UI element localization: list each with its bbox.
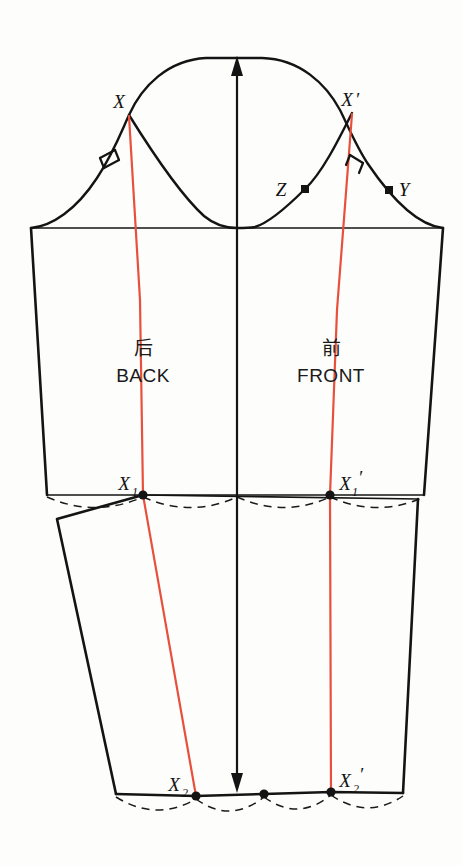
- label-point-X1: X: [117, 473, 131, 494]
- panel-label-back-cjk: 后: [134, 337, 153, 359]
- label-point-X-prime-group: X ′: [340, 89, 360, 110]
- label-point-X2-prime: X: [338, 770, 352, 791]
- prime-mark-X1-prime: ′: [358, 467, 363, 488]
- point-marker-Y: [385, 186, 393, 194]
- label-point-X2: X: [167, 774, 181, 795]
- sleeve-cap-front-outer-curve: [237, 58, 443, 228]
- sleeve-pattern-diagram: X X ′ Z Y X 1 X 1 ′ X 2 X 2 ′ 后 BACK 前 F: [0, 0, 462, 866]
- label-point-X1-subscript: 1: [132, 485, 138, 499]
- point-marker-Z: [301, 185, 309, 193]
- back-balance-seam-line: [129, 116, 196, 796]
- point-marker-X2: [191, 791, 200, 800]
- panel-label-front-latin: FRONT: [297, 365, 365, 386]
- label-point-Y: Y: [399, 179, 412, 200]
- front-balance-seam-line: [330, 114, 352, 792]
- prime-mark-X-prime: ′: [355, 89, 360, 110]
- label-point-X2-subscript: 2: [182, 786, 188, 800]
- pattern-drawing-canvas: X X ′ Z Y X 1 X 1 ′ X 2 X 2 ′ 后 BACK 前 F: [0, 0, 462, 866]
- prime-mark-X2-prime: ′: [359, 764, 364, 785]
- upper-sleeve-front-side-seam: [424, 228, 443, 495]
- label-point-Z: Z: [276, 179, 287, 200]
- lower-sleeve-front-side-seam: [403, 499, 418, 793]
- point-marker-X2-prime: [326, 787, 335, 796]
- label-point-X1-prime: X: [338, 473, 352, 494]
- sleeve-cap-inner-back-curve: [129, 115, 237, 228]
- point-marker-X1: [138, 490, 147, 499]
- point-marker-X1-prime: [325, 490, 334, 499]
- lower-sleeve-back-side-seam: [57, 495, 143, 794]
- label-point-X: X: [112, 91, 126, 112]
- grainline-bottom-arrowhead: [231, 773, 243, 793]
- upper-sleeve-back-side-seam: [31, 228, 47, 495]
- panel-label-front-cjk: 前: [322, 337, 341, 359]
- hem-dashed-ease-arcs: [116, 795, 403, 811]
- point-marker-hem-center: [259, 789, 268, 798]
- label-point-X-prime: X: [340, 89, 354, 110]
- sleeve-cap-inner-front-curve: [237, 113, 352, 228]
- panel-label-back-latin: BACK: [116, 365, 170, 386]
